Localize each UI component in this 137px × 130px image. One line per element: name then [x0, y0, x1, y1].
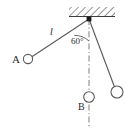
- label-string-length: l: [50, 26, 53, 37]
- pivot-point: [87, 17, 92, 22]
- ceiling-hatch-fill: [69, 7, 115, 16]
- string-to-bob-c: [89, 19, 115, 87]
- bob-c-circle: [111, 86, 123, 98]
- label-bob-a: A: [12, 53, 20, 65]
- pendulum-diagram: A B l 60°: [0, 0, 137, 130]
- pendulum-figure: A B l 60°: [0, 0, 137, 130]
- label-angle: 60°: [71, 36, 84, 46]
- label-bob-b: B: [78, 101, 85, 112]
- bob-a-circle: [23, 54, 32, 63]
- hatched-ceiling: [69, 7, 115, 17]
- bob-b-circle: [84, 92, 95, 103]
